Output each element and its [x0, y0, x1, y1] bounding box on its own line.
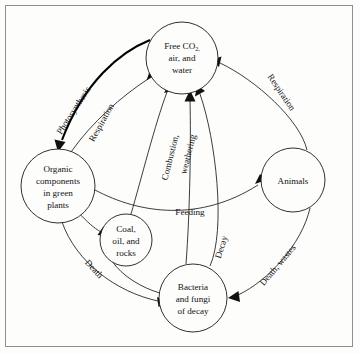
death-plants-label: Death — [83, 258, 105, 281]
respiration-animals-label: Respiration — [266, 72, 298, 113]
free-co2-node[interactable]: Free CO2, air, and water — [146, 22, 218, 94]
free-co2-label-line1: Free CO2, — [164, 41, 200, 52]
bacteria-fungi-label-line1: Bacteria — [178, 282, 208, 292]
death-wastes-label: Death, wastes — [258, 242, 298, 287]
organic-components-circle — [21, 149, 95, 223]
decay-label: Decay — [213, 234, 230, 260]
organic-components-label-line4: plants — [47, 200, 69, 210]
respiration-plants-label: Respiration — [87, 101, 116, 143]
organic-components-label-line2: components — [36, 176, 80, 186]
weathering-label: weathering — [178, 133, 198, 175]
animals-node[interactable]: Animals — [261, 148, 325, 212]
organic-components-label-line3: in green — [43, 188, 73, 198]
bacteria-fungi-node[interactable]: Bacteria and fungi of decay — [159, 264, 227, 332]
photosynthesis-label: Photosynthesis — [54, 84, 92, 136]
animals-label: Animals — [278, 176, 309, 186]
coal-oil-rocks-label-line3: rocks — [116, 248, 136, 258]
carbon-cycle-figure: Free CO2, air, and water Organic compone… — [0, 0, 360, 354]
organic-components-label-line1: Organic — [43, 164, 72, 174]
coal-to-bacteria-path — [112, 261, 160, 293]
combustion-path — [131, 92, 167, 214]
free-co2-label-line3: water — [172, 65, 192, 75]
carbon-cycle-diagram: Free CO2, air, and water Organic compone… — [0, 0, 360, 354]
coal-oil-rocks-label-line1: Coal, — [116, 224, 135, 234]
organic-components-node[interactable]: Organic components in green plants — [21, 149, 95, 223]
weathering-path — [186, 100, 190, 264]
combustion-label: Combustion, — [160, 133, 181, 181]
bacteria-fungi-label-line2: and fungi — [176, 294, 211, 304]
coal-oil-rocks-label-line2: oil, and — [112, 236, 140, 246]
decay-path — [200, 94, 218, 266]
coal-oil-rocks-node[interactable]: Coal, oil, and rocks — [100, 214, 152, 266]
photosynthesis-path — [62, 40, 150, 140]
bacteria-fungi-label-line3: of decay — [177, 306, 209, 316]
free-co2-label-line2: air, and — [169, 53, 196, 63]
death-wastes-arrowhead — [228, 291, 240, 302]
feeding-label: Feeding — [175, 207, 205, 217]
death-wastes-path — [238, 208, 310, 295]
